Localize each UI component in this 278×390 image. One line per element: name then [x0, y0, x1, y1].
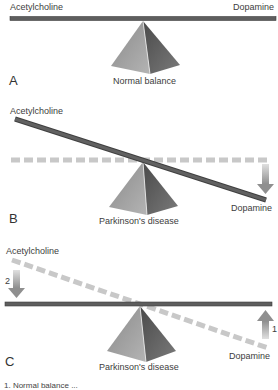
panel-b: [11, 119, 274, 215]
fulcrum-pyramid: [111, 21, 180, 74]
dopamine-label: Dopamine: [233, 2, 274, 12]
acetylcholine-label: Acetylcholine: [10, 2, 63, 12]
figure-footer-text: 1. Normal balance ...: [4, 381, 78, 390]
panel-letter-c: C: [5, 354, 14, 369]
panel-a: [10, 17, 276, 75]
panel-c: [5, 260, 274, 362]
down-arrow-icon: [257, 164, 274, 194]
down-arrow-icon: [8, 270, 25, 298]
balance-bar: [10, 17, 276, 21]
arrow-label-2: 2: [5, 276, 10, 286]
panel-a-caption: Normal balance: [113, 76, 176, 86]
arrow-label-1: 1: [272, 324, 277, 334]
dopamine-label: Dopamine: [229, 351, 270, 361]
panel-letter-b: B: [9, 211, 18, 226]
panel-b-caption: Parkinson's disease: [99, 216, 179, 226]
panel-c-caption: Parkinson's disease: [99, 362, 179, 372]
acetylcholine-label: Acetylcholine: [10, 106, 63, 116]
panel-letter-a: A: [9, 73, 18, 88]
acetylcholine-label: Acetylcholine: [6, 246, 59, 256]
dopamine-label: Dopamine: [231, 203, 272, 213]
restored-balance-bar: [5, 302, 272, 306]
